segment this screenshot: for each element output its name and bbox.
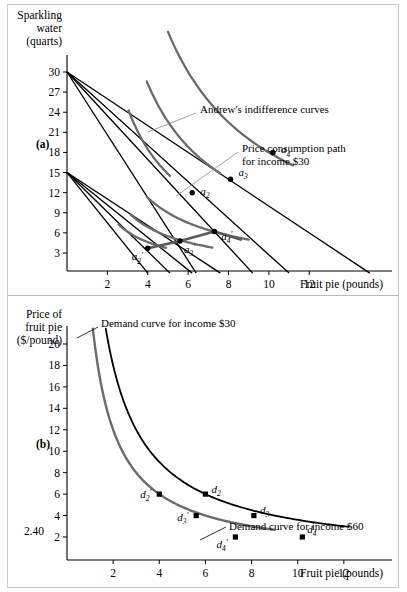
demand-60-label-leader — [200, 527, 226, 540]
indifference-curves-label: Andrew's indifference curves — [200, 103, 329, 115]
data-point — [189, 190, 194, 195]
panel-b-y-tick-label: 10 — [49, 445, 61, 457]
panel-a-y-axis-title-line-1: water — [36, 22, 62, 34]
price-consumption-path-label-line1: Price consumption path — [242, 142, 346, 154]
demand-curve-income-60-label: Demand curve for income $60 — [229, 520, 364, 532]
point-label: a3 — [239, 166, 249, 181]
indifference-curve-a2-prime — [118, 224, 165, 247]
panel-b-y-tick-label: 8 — [54, 467, 60, 479]
panel-b-y-tick-label: 20 — [49, 338, 61, 350]
panel-a-x-tick-label: 2 — [105, 278, 111, 290]
point-label: d2 — [211, 483, 221, 498]
panel-a-y-tick-label: 6 — [54, 227, 60, 239]
panel-a-x-tick-label: 8 — [226, 278, 232, 290]
panel-b-x-tick-label: 4 — [156, 567, 162, 579]
panel-b-y-axis-title-line-1: fruit pie — [25, 321, 62, 334]
panel-a-y-tick-label: 12 — [49, 187, 61, 199]
data-point — [177, 238, 182, 243]
price-consumption-path-label-line2: for income $30 — [242, 155, 310, 167]
point-label: d3 — [260, 504, 270, 519]
budget-15-p1 — [67, 173, 220, 274]
panel-b-x-tick-label: 8 — [249, 567, 255, 579]
panel-b-x-tick-label: 2 — [110, 567, 116, 579]
panel-b-x-axis-title: Fruit pie (pounds) — [300, 567, 383, 580]
panel-a-y-axis-title-line-0: Sparkling — [17, 9, 62, 22]
panel-a: Sparklingwater(quarts)(a)369121518212427… — [0, 0, 407, 296]
demand-curve-income-30 — [93, 329, 275, 530]
data-point — [212, 229, 217, 234]
data-point — [203, 492, 208, 497]
demand-curve-income-30-label: Demand curve for income $30 — [101, 317, 236, 329]
point-label: a4' — [221, 229, 233, 245]
panel-b-y-axis-title-line-0: Price of — [26, 308, 62, 320]
data-point — [145, 246, 150, 251]
panel-a-y-tick-label: 24 — [49, 106, 61, 118]
price-path-label-leader — [176, 152, 238, 196]
panel-b-y-tick-label: 12 — [49, 424, 61, 436]
data-point — [251, 513, 256, 518]
panel-a-y-tick-label: 9 — [54, 207, 60, 219]
panel-b-x-tick-label: 6 — [203, 567, 209, 579]
panel-b-y-tick-label: 4 — [54, 510, 60, 522]
panel-b-y-tick-label: 16 — [49, 381, 61, 393]
panel-b-y-tick-label: 18 — [49, 359, 61, 371]
panel-b-y-tick-label: 2 — [54, 531, 60, 543]
panel-a-y-tick-label: 27 — [49, 86, 61, 98]
panel-a-y-tick-label: 15 — [49, 167, 61, 179]
figure-container: Sparklingwater(quarts)(a)369121518212427… — [0, 0, 407, 592]
point-label: d4' — [216, 537, 228, 553]
panel-b-y-tick-label: 14 — [49, 402, 61, 414]
point-label: d3' — [177, 510, 189, 526]
panel-a-y-tick-label: 18 — [49, 146, 61, 158]
panel-b-special-tick-label: 2.40 — [24, 525, 44, 537]
panel-a-y-tick-label: 30 — [49, 66, 61, 78]
panel-a-x-tick-label: 4 — [145, 278, 151, 290]
panel-b-y-tick-label: 6 — [54, 488, 60, 500]
data-point — [300, 534, 305, 539]
indifference-curve-a3 — [147, 81, 221, 173]
data-point — [233, 534, 238, 539]
panel-a-x-axis-title: Fruit pie (pounds) — [300, 278, 383, 291]
data-point — [157, 492, 162, 497]
budget-15-p3 — [67, 173, 170, 274]
panel-a-y-tick-label: 3 — [54, 247, 60, 259]
point-label: d2' — [140, 487, 152, 503]
point-label: a2 — [200, 185, 210, 200]
panel-a-y-axis-title-line-2: (quarts) — [26, 35, 62, 48]
data-point — [228, 177, 233, 182]
indifference-curve-a2 — [129, 110, 170, 175]
data-point — [194, 513, 199, 518]
point-label: a2' — [132, 250, 144, 266]
panel-b: Price offruit pie($/pound)(b)24681012141… — [0, 296, 407, 592]
panel-a-x-tick-label: 6 — [185, 278, 191, 290]
panel-a-y-tick-label: 21 — [49, 126, 61, 138]
data-point — [270, 150, 275, 155]
panel-a-x-tick-label: 10 — [263, 278, 275, 290]
